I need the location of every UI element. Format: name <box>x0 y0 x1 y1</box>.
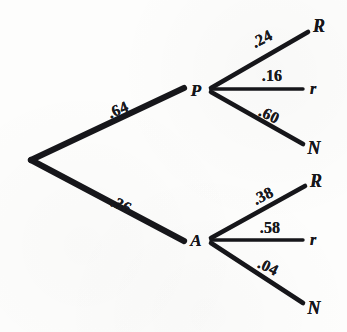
leaf-p-r: r <box>310 81 316 97</box>
leaf-p-N: N <box>308 139 321 157</box>
leaf-a-r: r <box>310 232 316 248</box>
node-p: P <box>191 82 201 99</box>
leaf-a-N: N <box>308 299 321 317</box>
tree-branches <box>0 0 347 332</box>
branch-root-to-a <box>31 160 184 241</box>
probability-tree-figure: P A R r N R r N .64 .36 .24 .16 .60 .38 … <box>0 0 347 332</box>
edge-label-a-to-r: .58 <box>260 220 281 236</box>
leaf-a-R: R <box>310 172 322 190</box>
leaf-p-R: R <box>313 17 325 35</box>
node-a: A <box>190 232 201 249</box>
branch-root-to-p <box>31 88 184 160</box>
branch-a-to-N <box>211 243 303 303</box>
edge-label-p-to-r: .16 <box>262 68 283 84</box>
